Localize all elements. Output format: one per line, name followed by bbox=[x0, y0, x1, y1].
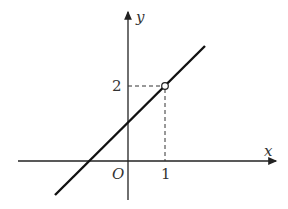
origin-label: O bbox=[112, 165, 124, 183]
x-tick-label: 1 bbox=[161, 165, 171, 183]
line-series bbox=[55, 46, 205, 195]
open-point bbox=[162, 83, 169, 90]
y-axis-label: y bbox=[135, 8, 145, 26]
y-tick-label: 2 bbox=[112, 77, 122, 95]
x-axis-label: x bbox=[264, 142, 273, 160]
coordinate-plot: y x O 1 2 bbox=[0, 0, 288, 209]
